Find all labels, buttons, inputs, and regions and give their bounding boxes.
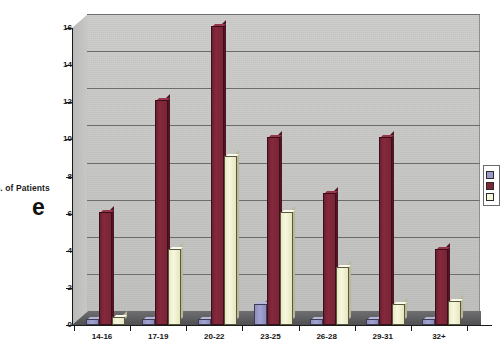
bar-front-face — [448, 301, 461, 325]
x-axis-label-14-16: 14-16 — [79, 332, 125, 341]
bar-23-25-series-3 — [280, 214, 291, 325]
bar-29-31-series-2 — [379, 139, 390, 325]
x-axis-tick — [299, 325, 300, 331]
y-axis-tick-label: 14 — [52, 60, 72, 69]
x-axis-label-26-28: 26-28 — [304, 332, 350, 341]
bar-20-22-series-2 — [211, 28, 222, 325]
bar-23-25-series-2 — [267, 139, 278, 325]
x-axis-label-29-31: 29-31 — [360, 332, 406, 341]
bar-29-31-series-3 — [392, 306, 403, 325]
x-axis-tick — [242, 325, 243, 331]
bar-front-face — [224, 156, 237, 325]
x-axis-tick — [186, 325, 187, 331]
bar-32plus-series-3 — [448, 303, 459, 325]
x-axis-label-17-19: 17-19 — [135, 332, 181, 341]
x-axis-tick — [467, 325, 468, 331]
figure-panel-letter: e — [32, 196, 45, 219]
bar-front-face — [211, 26, 224, 325]
x-axis-label-23-25: 23-25 — [248, 332, 294, 341]
bar-14-16-series-2 — [99, 214, 110, 325]
bar-front-face — [379, 137, 392, 325]
x-axis-line — [72, 325, 492, 326]
bar-20-22-series-3 — [224, 158, 235, 325]
gridline — [87, 163, 480, 164]
plot-side-wall — [72, 14, 88, 325]
bar-front-face — [392, 304, 405, 325]
y-axis-tick-label: 8 — [52, 172, 72, 181]
y-axis-tick-label: 10 — [52, 134, 72, 143]
bar-front-face — [280, 212, 293, 325]
y-axis-tick-label: 0 — [52, 320, 72, 329]
y-axis-tick-label: 2 — [52, 283, 72, 292]
x-axis-tick — [355, 325, 356, 331]
bar-26-28-series-2 — [323, 195, 334, 325]
bar-front-face — [112, 317, 125, 325]
gridline — [87, 51, 480, 52]
x-axis-tick — [411, 325, 412, 331]
bar-17-19-series-2 — [155, 102, 166, 325]
bar-front-face — [99, 212, 112, 325]
y-axis-tick-label: 16 — [52, 23, 72, 32]
legend-swatch-series-3 — [486, 193, 494, 201]
y-axis-line — [72, 28, 73, 325]
x-axis-label-20-22: 20-22 — [191, 332, 237, 341]
chart-legend — [483, 165, 500, 206]
legend-item — [486, 169, 497, 180]
legend-swatch-series-1 — [486, 171, 494, 179]
y-axis-title: o. of Patients — [0, 183, 50, 193]
x-axis-tick — [74, 325, 75, 331]
bar-front-face — [155, 100, 168, 325]
bar-front-face — [168, 249, 181, 325]
gridline — [87, 125, 480, 126]
bar-23-25-series-1 — [254, 306, 265, 325]
legend-swatch-series-2 — [486, 182, 494, 190]
gridline — [87, 200, 480, 201]
bar-front-face — [323, 193, 336, 325]
x-axis-tick — [130, 325, 131, 331]
y-axis-tick-label: 6 — [52, 209, 72, 218]
bar-17-19-series-3 — [168, 251, 179, 325]
y-axis-tick-label: 4 — [52, 246, 72, 255]
bar-front-face — [254, 304, 267, 325]
bar-front-face — [267, 137, 280, 325]
bar-32plus-series-2 — [435, 251, 446, 325]
legend-item — [486, 191, 497, 202]
legend-item — [486, 180, 497, 191]
x-axis-label-32plus: 32+ — [416, 332, 462, 341]
bar-front-face — [336, 267, 349, 325]
bar-26-28-series-3 — [336, 269, 347, 325]
gridline — [87, 88, 480, 89]
bar-front-face — [435, 249, 448, 325]
gridline — [87, 14, 480, 15]
y-axis-tick-label: 12 — [52, 97, 72, 106]
chart-screenshot: o. of Patients e 0246810121416 14-1617-1… — [0, 0, 500, 343]
